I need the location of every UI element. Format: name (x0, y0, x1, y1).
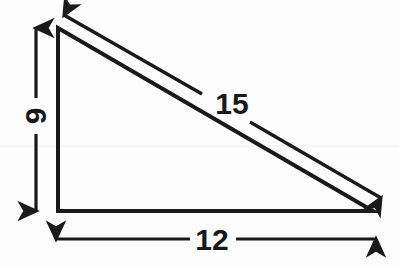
base-label: 12 (195, 223, 228, 256)
triangle-path (58, 28, 373, 211)
diagonal-arrow-upper-segment (64, 15, 202, 94)
triangle-outline (58, 28, 373, 211)
hypotenuse-label: 15 (215, 87, 248, 120)
geometry-figure: 9 12 15 (0, 0, 399, 267)
diagonal-arrow-lower-segment (250, 122, 381, 198)
vertical-leg-label: 9 (19, 108, 52, 125)
triangle-diagram-canvas: 9 12 15 (0, 0, 399, 267)
